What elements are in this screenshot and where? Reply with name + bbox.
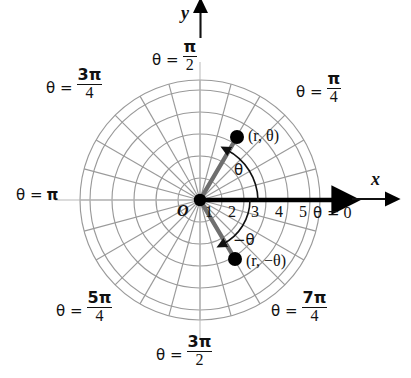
fraction-3pi-4: 3π 4 bbox=[77, 67, 103, 101]
radial-tick-3: 3 bbox=[251, 204, 259, 220]
angle-label-theta-7pi-4: θ = 7π 4 bbox=[271, 296, 327, 330]
fraction-denominator: 2 bbox=[187, 351, 213, 368]
fraction-numerator: 3π bbox=[187, 334, 213, 350]
point-upper-marker[interactable] bbox=[230, 130, 244, 144]
angle-label-theta-5pi-4: θ = 5π 4 bbox=[56, 296, 112, 330]
point-upper-label: (r, θ) bbox=[248, 128, 279, 144]
fraction-denominator: 4 bbox=[77, 84, 103, 101]
grid-radial-120 bbox=[140, 96, 200, 200]
fraction-pi-2: π 2 bbox=[183, 39, 198, 73]
angle-label-lhs: θ = bbox=[46, 79, 73, 97]
point-lower-label: (r, −θ) bbox=[246, 253, 286, 269]
grid-radial-105 bbox=[169, 84, 200, 200]
angle-label-lhs: θ = bbox=[271, 302, 298, 320]
angle-label-lhs: θ = bbox=[296, 83, 323, 101]
grid-radial-240 bbox=[140, 200, 200, 304]
angle-label-theta-pi-2: θ = π 2 bbox=[152, 45, 197, 79]
fraction-numerator: 5π bbox=[87, 290, 113, 306]
angle-label-lhs: θ = bbox=[16, 186, 43, 204]
fraction-7pi-4: 7π 4 bbox=[302, 290, 328, 324]
fraction-numerator: π bbox=[327, 71, 342, 87]
angle-label-theta-3pi-4: θ = 3π 4 bbox=[46, 73, 102, 107]
origin-label: O bbox=[177, 203, 189, 219]
arc-label-theta-negative: −θ bbox=[233, 233, 255, 248]
radial-tick-1: 1 bbox=[205, 204, 213, 220]
fraction-denominator: 4 bbox=[87, 307, 113, 324]
fraction-numerator: 3π bbox=[77, 67, 103, 83]
radial-tick-4: 4 bbox=[275, 204, 283, 220]
fraction-3pi-2: 3π 2 bbox=[187, 334, 213, 368]
angle-label-lhs: θ = bbox=[156, 346, 183, 364]
grid-radial-165 bbox=[84, 169, 200, 200]
arc-label-theta-positive: θ bbox=[234, 163, 243, 178]
angle-label-lhs: θ = bbox=[313, 204, 340, 222]
angle-label-lhs: θ = bbox=[56, 302, 83, 320]
x-axis-label: x bbox=[371, 170, 380, 188]
grid-radial-75 bbox=[200, 84, 231, 200]
angle-label-theta-pi: θ = π bbox=[16, 187, 58, 203]
radial-tick-2: 2 bbox=[228, 204, 236, 220]
angle-label-value: π bbox=[47, 186, 59, 204]
point-lower-marker[interactable] bbox=[228, 252, 242, 266]
angle-label-theta-pi-4: θ = π 4 bbox=[296, 77, 341, 111]
fraction-numerator: π bbox=[183, 39, 198, 55]
y-axis-label: y bbox=[181, 4, 189, 22]
grid-radial-150 bbox=[96, 140, 200, 200]
angle-label-value: 0 bbox=[344, 204, 352, 221]
angle-label-lhs: θ = bbox=[152, 51, 179, 69]
angle-label-theta-3pi-2: θ = 3π 2 bbox=[156, 340, 212, 374]
fraction-denominator: 2 bbox=[183, 56, 198, 73]
fraction-5pi-4: 5π 4 bbox=[87, 290, 113, 324]
fraction-denominator: 4 bbox=[327, 88, 342, 105]
fraction-numerator: 7π bbox=[302, 290, 328, 306]
radial-tick-5: 5 bbox=[299, 204, 307, 220]
angle-label-theta-0: θ = 0 bbox=[313, 205, 352, 221]
polar-diagram-figure: y x O 1 2 3 4 5 θ = π 2 θ = 3π 4 θ = π 4… bbox=[0, 0, 411, 378]
fraction-pi-4: π 4 bbox=[327, 71, 342, 105]
fraction-denominator: 4 bbox=[302, 307, 328, 324]
